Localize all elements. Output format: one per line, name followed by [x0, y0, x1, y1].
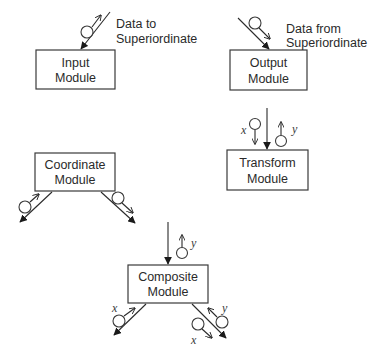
data-couple-arrow-down-icon: [122, 203, 133, 213]
composite-module-label-line1: Composite: [138, 270, 198, 284]
input-module-label-line2: Module: [55, 71, 96, 85]
composite-right-arrow: x y: [190, 301, 228, 347]
data-couple-arrow-down-icon: [259, 28, 270, 39]
variable-y-label: y: [221, 301, 228, 315]
data-couple-circle-icon: [250, 119, 261, 130]
coordinate-module-label-line1: Coordinate: [44, 158, 105, 172]
coordinate-module-label-line2: Module: [55, 173, 96, 187]
data-couple-circle-icon: [276, 136, 287, 147]
output-module[interactable]: Output Module: [230, 50, 307, 90]
coordinate-left-arrow: [19, 192, 52, 222]
transform-module-label-line2: Module: [247, 172, 288, 186]
variable-x-label: x: [190, 333, 197, 347]
data-couple-arrow-up-icon: [124, 308, 135, 316]
svg-text:Superiordinate: Superiordinate: [286, 36, 367, 50]
composite-module-label-line2: Module: [148, 285, 189, 299]
composite-top-arrow: y: [168, 222, 197, 264]
svg-text:Superiordinate: Superiordinate: [116, 32, 197, 46]
data-couple-circle-icon: [113, 315, 125, 327]
data-couple-circle-icon: [192, 318, 204, 330]
structure-chart-diagram: Input Module Data to Superiordinate Outp…: [0, 0, 378, 356]
data-couple-circle-icon: [19, 201, 31, 213]
data-couple-circle-icon: [81, 26, 93, 38]
coordinate-module[interactable]: Coordinate Module: [35, 153, 115, 191]
data-couple-arrow-up-icon: [208, 308, 217, 317]
variable-y-label: y: [291, 122, 298, 136]
data-couple-circle-icon: [216, 316, 228, 328]
data-from-superiordinate-label: Data from Superiordinate: [286, 22, 367, 50]
transform-module[interactable]: Transform Module: [227, 150, 308, 190]
data-couple-circle-icon: [112, 192, 124, 204]
transform-module-label-line1: Transform: [239, 156, 296, 170]
input-module[interactable]: Input Module: [36, 50, 115, 89]
data-couple-circle-icon: [249, 17, 261, 29]
output-module-label-line1: Output: [250, 56, 288, 70]
variable-x-label: x: [240, 123, 247, 137]
data-couple-arrow-up-icon: [30, 194, 39, 202]
composite-left-arrow: x: [111, 301, 146, 335]
svg-text:Data to: Data to: [116, 17, 156, 31]
coordinate-right-arrow: [101, 192, 135, 223]
svg-text:Data from: Data from: [286, 22, 341, 36]
composite-module[interactable]: Composite Module: [128, 265, 208, 303]
output-module-label-line2: Module: [248, 72, 289, 86]
output-call-arrow: [238, 17, 270, 49]
input-call-arrow: [81, 12, 110, 49]
data-couple-circle-icon: [177, 248, 188, 259]
input-module-label-line1: Input: [62, 56, 90, 70]
transform-call-arrow: x y: [240, 108, 298, 149]
data-couple-arrow-down-icon: [202, 329, 212, 338]
data-to-superiordinate-label: Data to Superiordinate: [116, 17, 197, 46]
variable-x-label: x: [111, 301, 118, 315]
variable-y-label: y: [190, 236, 197, 250]
